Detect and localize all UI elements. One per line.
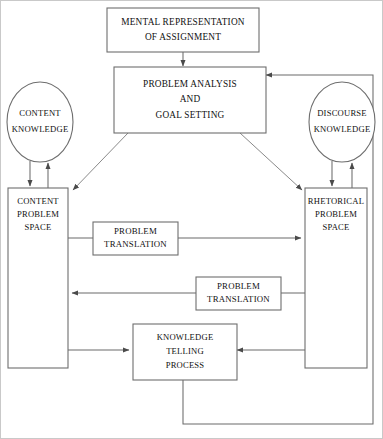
edge-analysis-to-content-space <box>73 133 128 190</box>
rhetorical-problem-space-line-3: SPACE <box>323 222 350 232</box>
flowchart-svg: MENTAL REPRESENTATION OF ASSIGNMENT PROB… <box>0 0 383 439</box>
content-problem-space-line-3: SPACE <box>25 222 52 232</box>
node-rhetorical-problem-space: RHETORICAL PROBLEM SPACE <box>305 188 367 368</box>
mental-representation-line-2: OF ASSIGNMENT <box>145 32 221 42</box>
node-knowledge-telling-process: KNOWLEDGE TELLING PROCESS <box>133 324 237 380</box>
problem-analysis-line-1: PROBLEM ANALYSIS <box>143 79 237 89</box>
problem-translation-upper-line-1: PROBLEM <box>114 226 157 236</box>
knowledge-telling-line-2: TELLING <box>166 346 204 356</box>
problem-translation-upper-line-2: TRANSLATION <box>104 239 167 249</box>
edge-analysis-to-rhetorical-space <box>240 133 302 190</box>
problem-analysis-line-2: AND <box>180 94 201 104</box>
content-knowledge-line-2: KNOWLEDGE <box>12 124 69 134</box>
knowledge-telling-line-3: PROCESS <box>166 360 205 370</box>
content-knowledge-line-1: CONTENT <box>19 108 61 118</box>
node-mental-representation: MENTAL REPRESENTATION OF ASSIGNMENT <box>107 8 259 52</box>
node-problem-analysis: PROBLEM ANALYSIS AND GOAL SETTING <box>114 67 266 133</box>
node-content-knowledge: CONTENT KNOWLEDGE <box>7 82 73 162</box>
problem-translation-lower-line-1: PROBLEM <box>217 281 260 291</box>
node-content-problem-space: CONTENT PROBLEM SPACE <box>8 188 68 368</box>
node-discourse-knowledge: DISCOURSE KNOWLEDGE <box>309 82 375 162</box>
rhetorical-problem-space-line-2: PROBLEM <box>315 209 357 219</box>
diagram-canvas: MENTAL REPRESENTATION OF ASSIGNMENT PROB… <box>0 0 383 439</box>
knowledge-telling-line-1: KNOWLEDGE <box>157 332 214 342</box>
content-problem-space-line-1: CONTENT <box>17 196 59 206</box>
problem-translation-lower-line-2: TRANSLATION <box>207 294 270 304</box>
problem-analysis-line-3: GOAL SETTING <box>156 110 225 120</box>
rhetorical-problem-space-line-1: RHETORICAL <box>308 196 364 206</box>
content-problem-space-line-2: PROBLEM <box>17 209 59 219</box>
discourse-knowledge-line-2: KNOWLEDGE <box>314 124 371 134</box>
node-problem-translation-lower: PROBLEM TRANSLATION <box>196 277 281 310</box>
discourse-knowledge-line-1: DISCOURSE <box>317 108 367 118</box>
node-problem-translation-upper: PROBLEM TRANSLATION <box>93 222 178 255</box>
mental-representation-line-1: MENTAL REPRESENTATION <box>121 17 245 27</box>
